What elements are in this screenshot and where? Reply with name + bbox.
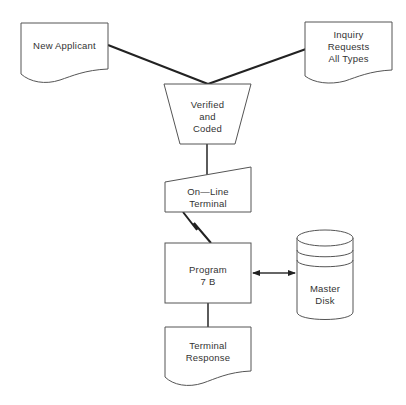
communication-link-icon — [183, 212, 211, 243]
label-online-terminal: On—Line Terminal — [165, 186, 251, 210]
label-terminal-response: Terminal Response — [165, 340, 251, 364]
label-master-disk: Master Disk — [297, 283, 353, 307]
label-verified-coded: Verified and Coded — [170, 99, 245, 135]
label-inquiry-requests: Inquiry Requests All Types — [305, 29, 392, 65]
label-program-7b: Program 7 B — [165, 264, 251, 288]
document-shape-new-applicant — [21, 23, 108, 82]
connector-inquiry-to-verified — [208, 49, 306, 84]
flowchart-canvas: New Applicant Inquiry Requests All Types… — [0, 0, 406, 405]
connector-new-applicant-to-verified — [108, 45, 208, 84]
label-new-applicant: New Applicant — [21, 40, 108, 52]
